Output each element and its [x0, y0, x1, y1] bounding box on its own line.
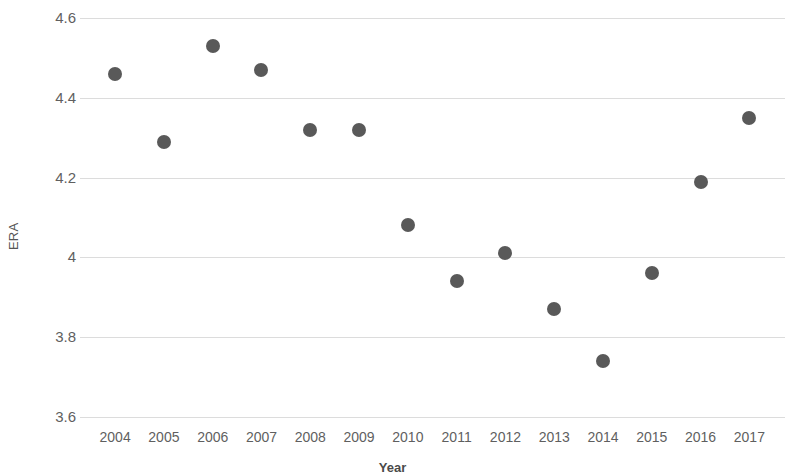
data-point[interactable] — [450, 274, 464, 288]
era-by-year-scatter-chart: ERA 4.64.44.243.83.6 2004200520062007200… — [0, 0, 785, 476]
data-point[interactable] — [645, 266, 659, 280]
gridline — [80, 417, 785, 418]
plot-area: 2004200520062007200820092010201120122013… — [80, 0, 785, 425]
x-tick-label: 2012 — [482, 428, 528, 446]
x-tick-label: 2016 — [678, 428, 724, 446]
data-point[interactable] — [108, 67, 122, 81]
x-tick-label: 2014 — [580, 428, 626, 446]
x-tick-label: 2013 — [531, 428, 577, 446]
data-point[interactable] — [596, 354, 610, 368]
x-tick-label: 2006 — [190, 428, 236, 446]
gridline — [80, 178, 785, 179]
data-point[interactable] — [206, 39, 220, 53]
data-point[interactable] — [254, 63, 268, 77]
data-point[interactable] — [742, 111, 756, 125]
y-axis-title: ERA — [2, 196, 24, 276]
x-tick-label: 2015 — [629, 428, 675, 446]
y-tick-label: 3.8 — [32, 329, 76, 345]
gridline — [80, 18, 785, 19]
x-tick-label: 2017 — [726, 428, 772, 446]
gridline — [80, 98, 785, 99]
data-point[interactable] — [547, 302, 561, 316]
y-tick-label: 4.6 — [32, 10, 76, 26]
y-tick-label: 3.6 — [32, 409, 76, 425]
data-point[interactable] — [157, 135, 171, 149]
x-axis-title: Year — [0, 459, 785, 476]
x-tick-label: 2004 — [92, 428, 138, 446]
gridline — [80, 337, 785, 338]
x-tick-label: 2008 — [287, 428, 333, 446]
x-tick-label: 2010 — [385, 428, 431, 446]
y-tick-label: 4.4 — [32, 90, 76, 106]
data-point[interactable] — [694, 175, 708, 189]
y-tick-label: 4.2 — [32, 170, 76, 186]
x-tick-label: 2011 — [434, 428, 480, 446]
data-point[interactable] — [303, 123, 317, 137]
gridline — [80, 257, 785, 258]
x-tick-label: 2007 — [238, 428, 284, 446]
x-tick-label: 2005 — [141, 428, 187, 446]
data-point[interactable] — [352, 123, 366, 137]
y-axis-tick-labels: 4.64.44.243.83.6 — [22, 0, 76, 425]
y-tick-label: 4 — [32, 249, 76, 265]
data-point[interactable] — [401, 218, 415, 232]
x-tick-label: 2009 — [336, 428, 382, 446]
